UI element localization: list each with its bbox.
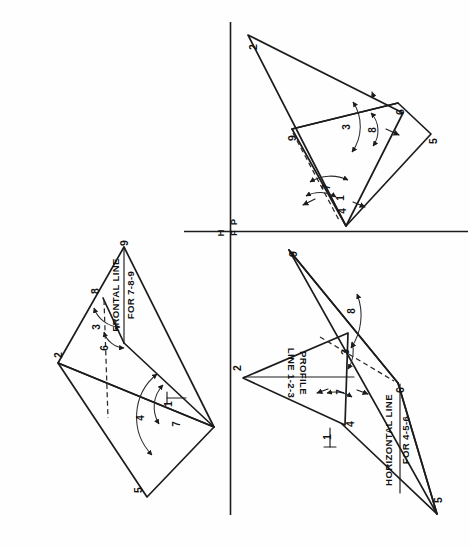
top-vertex-5: 5 — [132, 487, 144, 493]
front-arclabel-8: 8 — [346, 308, 357, 314]
technical-drawing-canvas: H F P 2 9 6 5 3 8 — [0, 0, 470, 547]
profile-vertex-6: 6 — [394, 109, 406, 115]
front-annotation-horizontal-line: HORIZONTAL LINE FOR 4-5-6 — [383, 394, 411, 486]
plane-label-f: F — [228, 230, 239, 236]
profile-vertex-5: 5 — [427, 138, 439, 144]
front-tick-b — [317, 389, 328, 393]
top-vertex-8: 8 — [89, 288, 101, 294]
front-annotation-profile-line: PROFILE LINE 1-2-3 — [286, 348, 309, 398]
profile-arc-3 — [352, 102, 360, 152]
front-note-horizontal-l1: HORIZONTAL LINE — [383, 394, 394, 486]
profile-arclabel-4: 4 — [337, 208, 348, 214]
drawing-sheet: H F P 2 9 6 5 3 8 — [0, 0, 470, 547]
top-vertex-9: 9 — [118, 240, 130, 246]
front-note-profile-l2: LINE 1-2-3 — [286, 348, 297, 398]
profile-arclabel-7: 7 — [321, 184, 332, 190]
front-arc-8 — [351, 294, 361, 348]
top-note-frontal-l2: FOR 7-8-9 — [125, 271, 136, 319]
profile-vertex-2: 2 — [247, 44, 259, 50]
front-hidden-line — [320, 337, 394, 381]
front-vertex-6: 6 — [394, 387, 406, 393]
top-arclabel-1: 1 — [163, 401, 174, 407]
front-tick-a — [357, 390, 368, 394]
front-vertex-2: 2 — [231, 365, 243, 371]
top-view-group: 2 9 8 5 3 6 1 7 4 FRONTAL LINE FOR 7-8-9 — [52, 240, 214, 497]
top-hidden-line — [104, 300, 108, 418]
profile-tick-right — [353, 202, 365, 207]
top-arclabel-7: 7 — [171, 421, 182, 427]
front-note-horizontal-l2: FOR 4-5-6 — [400, 416, 411, 464]
top-annotation-frontal-line: FRONTAL LINE FOR 7-8-9 — [110, 258, 136, 332]
top-note-frontal-l1: FRONTAL LINE — [110, 258, 121, 332]
front-vertex-4: 4 — [344, 421, 356, 427]
front-arclabel-3: 3 — [340, 349, 351, 355]
top-arc-4 — [137, 374, 157, 455]
front-note-profile-l1: PROFILE — [298, 351, 309, 395]
profile-arclabel-8: 8 — [367, 127, 378, 133]
top-arclabel-4: 4 — [135, 415, 146, 421]
profile-arclabel-1: 1 — [335, 195, 346, 201]
top-vertex-2: 2 — [52, 352, 64, 358]
front-vertex-5: 5 — [432, 497, 444, 503]
top-triangle-789 — [58, 247, 214, 427]
front-arclabel-7: 7 — [335, 389, 346, 395]
reference-plane-lines — [184, 22, 468, 515]
profile-view-group: 2 9 6 5 3 8 7 1 4 — [247, 35, 439, 226]
front-view-group: 2 9 6 4 5 8 3 7 1 PROFILE LINE 1-2-3 HOR… — [231, 250, 444, 514]
top-edge-mid-apex — [124, 343, 214, 427]
front-triangle-456 — [289, 250, 437, 514]
profile-arclabel-3: 3 — [341, 124, 352, 130]
top-arclabel-6: 6 — [99, 345, 110, 351]
profile-hidden-line — [293, 133, 340, 222]
profile-vertex-9: 9 — [286, 135, 298, 141]
profile-arc-7 — [310, 176, 348, 182]
plane-label-p: P — [228, 218, 239, 225]
top-triangle-456 — [58, 363, 214, 497]
plane-label-h: H — [215, 229, 226, 236]
profile-tick-left — [303, 199, 315, 205]
reference-plane-labels: H F P — [215, 218, 239, 236]
front-vertex-9: 9 — [287, 251, 299, 257]
top-arclabel-3: 3 — [91, 324, 102, 330]
profile-triangle-123 — [248, 35, 403, 226]
front-arclabel-1: 1 — [322, 434, 333, 440]
profile-triangle-456 — [292, 103, 431, 226]
